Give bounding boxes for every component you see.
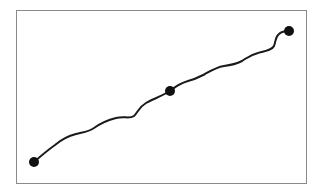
diagram-canvas [0, 0, 321, 194]
wavy-path-segment-2 [170, 31, 289, 91]
frame-border [17, 11, 307, 184]
node-middle [165, 86, 175, 96]
node-start [29, 157, 39, 167]
wavy-path-segment-1 [34, 91, 170, 162]
node-end [284, 26, 294, 36]
